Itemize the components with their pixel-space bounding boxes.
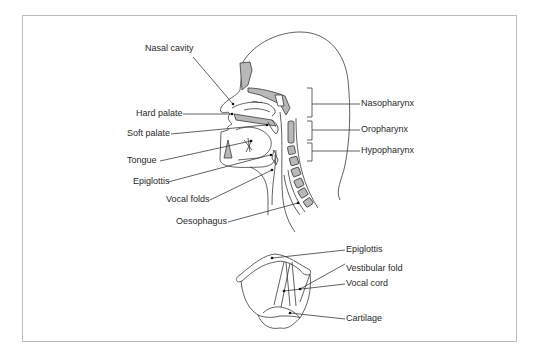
label-vocal-cord: Vocal cord — [346, 278, 388, 289]
label-nasopharynx: Nasopharynx — [361, 98, 414, 109]
label-soft-palate: Soft palate — [127, 128, 170, 139]
bracket-oropharynx — [307, 121, 360, 140]
label-larynx-epiglottis: Epiglottis — [346, 244, 383, 255]
label-oesophagus: Oesophagus — [176, 216, 227, 227]
label-epiglottis: Epiglottis — [133, 176, 170, 187]
vocal-cord-right — [286, 262, 296, 306]
bracket-hypopharynx — [307, 143, 360, 161]
label-hypopharynx: Hypopharynx — [361, 145, 414, 156]
anatomy-illustration — [0, 0, 536, 359]
face-profile — [220, 62, 243, 114]
label-nasal-cavity: Nasal cavity — [145, 43, 194, 54]
label-vocal-folds: Vocal folds — [166, 194, 210, 205]
label-hard-palate: Hard palate — [136, 108, 183, 119]
tongue-shape — [236, 127, 271, 160]
bracket-nasopharynx — [307, 88, 360, 117]
label-tongue: Tongue — [127, 155, 157, 166]
label-vestibular-fold: Vestibular fold — [346, 263, 403, 274]
vocal-cord-left — [274, 262, 290, 307]
hard-palate-shape — [234, 114, 276, 126]
label-cartilage: Cartilage — [346, 313, 382, 324]
label-oropharynx: Oropharynx — [361, 124, 408, 135]
